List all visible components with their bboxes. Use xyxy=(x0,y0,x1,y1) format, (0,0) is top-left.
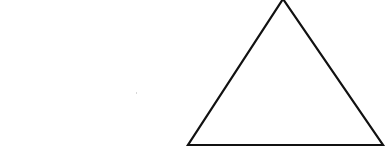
noise-speck xyxy=(136,92,137,94)
triangle-diagram xyxy=(0,0,390,161)
triangle-shape xyxy=(188,0,383,145)
diagram-canvas xyxy=(0,0,390,161)
